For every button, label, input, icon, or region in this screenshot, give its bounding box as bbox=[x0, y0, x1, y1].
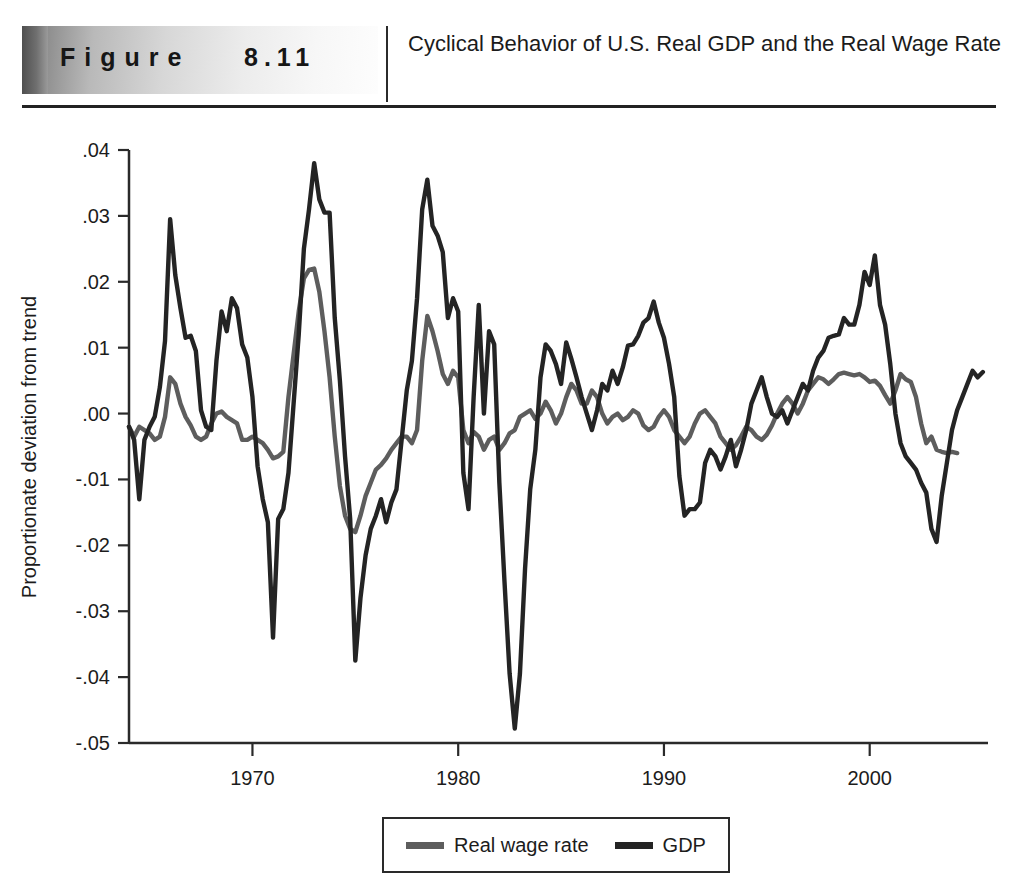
legend-swatch-icon-real-wage-rate bbox=[406, 842, 444, 849]
header-rule bbox=[22, 105, 996, 108]
x-tick-label: 1990 bbox=[642, 767, 687, 789]
y-tick-label: .01 bbox=[82, 337, 110, 359]
y-tick-label: .02 bbox=[82, 271, 110, 293]
series-line-gdp bbox=[129, 163, 983, 728]
legend-swatch-icon-gdp bbox=[615, 842, 653, 849]
legend-label-real-wage-rate: Real wage rate bbox=[454, 834, 589, 857]
y-tick-label: -.03 bbox=[76, 600, 110, 622]
chart-legend: Real wage rate GDP bbox=[382, 817, 730, 873]
figure-label-text: Figure bbox=[60, 43, 190, 72]
chart-container: .04.03.02.01.00-.01-.02-.03-.04-.05 1970… bbox=[0, 110, 1017, 810]
figure-badge: Figure 8.11 bbox=[22, 26, 378, 94]
x-tick-label: 1970 bbox=[230, 767, 275, 789]
legend-item-gdp: GDP bbox=[615, 834, 706, 857]
y-tick-label: -.01 bbox=[76, 468, 110, 490]
y-tick-label: .03 bbox=[82, 205, 110, 227]
y-axis-title: Proportionate deviation from trend bbox=[18, 296, 40, 598]
y-axis-ticks: .04.03.02.01.00-.01-.02-.03-.04-.05 bbox=[76, 139, 129, 754]
x-axis-ticks: 1970198019902000 bbox=[230, 743, 892, 789]
y-tick-label: -.05 bbox=[76, 732, 110, 754]
chart-series bbox=[129, 163, 983, 728]
line-chart: .04.03.02.01.00-.01-.02-.03-.04-.05 1970… bbox=[0, 110, 1017, 810]
x-tick-label: 1980 bbox=[436, 767, 481, 789]
y-tick-label: .00 bbox=[82, 403, 110, 425]
header-divider bbox=[386, 26, 388, 102]
y-tick-label: .04 bbox=[82, 139, 110, 161]
legend-label-gdp: GDP bbox=[663, 834, 706, 857]
y-tick-label: -.02 bbox=[76, 534, 110, 556]
x-tick-label: 2000 bbox=[847, 767, 892, 789]
legend-item-real-wage-rate: Real wage rate bbox=[406, 834, 589, 857]
figure-header: Figure 8.11 Cyclical Behavior of U.S. Re… bbox=[22, 26, 996, 108]
y-tick-label: -.04 bbox=[76, 666, 110, 688]
figure-number-text: 8.11 bbox=[244, 43, 315, 72]
page-title: Cyclical Behavior of U.S. Real GDP and t… bbox=[408, 28, 1008, 59]
